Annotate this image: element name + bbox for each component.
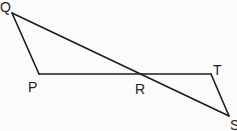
geometry-diagram: Q P R T S bbox=[0, 0, 237, 131]
diagram-svg: Q P R T S bbox=[0, 0, 237, 131]
label-q: Q bbox=[0, 0, 11, 15]
segment-qs bbox=[12, 13, 229, 116]
segment-ts bbox=[211, 74, 229, 116]
label-s: S bbox=[230, 117, 237, 131]
label-p: P bbox=[28, 79, 37, 95]
segment-qp bbox=[12, 13, 39, 74]
label-t: T bbox=[213, 62, 222, 78]
label-r: R bbox=[135, 81, 145, 97]
